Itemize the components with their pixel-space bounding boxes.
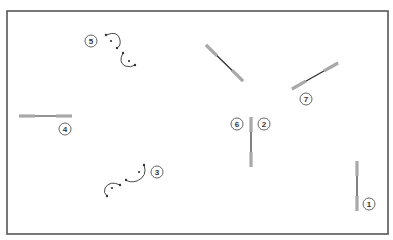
diagram-canvas: 1234567 bbox=[0, 0, 393, 240]
arcs-3 bbox=[104, 164, 145, 197]
rod-end-cap bbox=[292, 81, 306, 89]
arc-path bbox=[126, 165, 145, 182]
arc-center-dot bbox=[138, 171, 140, 173]
callout-number: 3 bbox=[155, 168, 160, 177]
arc-end-dot bbox=[119, 184, 121, 186]
callout-label-6: 6 bbox=[231, 118, 243, 130]
arc-center-dot bbox=[111, 187, 113, 189]
callout-number: 4 bbox=[63, 125, 68, 134]
rod-end-cap bbox=[232, 70, 243, 81]
arc-end-dot bbox=[106, 195, 108, 197]
arc-center-dot bbox=[110, 40, 112, 42]
arc-center-dot bbox=[128, 60, 130, 62]
arc-end-dot bbox=[122, 52, 124, 54]
arc-end-dot bbox=[143, 164, 145, 166]
callout-label-5: 5 bbox=[85, 35, 97, 47]
callout-number: 5 bbox=[89, 37, 94, 46]
rod-component bbox=[206, 45, 243, 81]
arc-end-dot bbox=[125, 179, 127, 181]
rod-end-cap bbox=[206, 45, 217, 56]
callout-number: 6 bbox=[235, 120, 240, 129]
callout-number: 7 bbox=[304, 95, 309, 104]
callout-label-2: 2 bbox=[258, 118, 270, 130]
diagram-frame bbox=[7, 11, 388, 234]
arc-group bbox=[104, 33, 145, 197]
rod-component bbox=[292, 63, 338, 89]
arc-path bbox=[104, 183, 120, 196]
arc-end-dot bbox=[134, 64, 136, 66]
arcs-5 bbox=[105, 33, 136, 66]
rod-end-cap bbox=[324, 63, 338, 71]
callout-number: 2 bbox=[262, 120, 267, 129]
callout-label-4: 4 bbox=[59, 123, 71, 135]
callout-label-3: 3 bbox=[151, 166, 163, 178]
arc-path bbox=[106, 33, 120, 48]
label-group: 1234567 bbox=[59, 35, 375, 210]
callout-number: 1 bbox=[367, 200, 372, 209]
callout-label-7: 7 bbox=[300, 93, 312, 105]
arc-path bbox=[121, 53, 135, 67]
arc-end-dot bbox=[105, 34, 107, 36]
arc-end-dot bbox=[116, 47, 118, 49]
callout-label-1: 1 bbox=[363, 198, 375, 210]
